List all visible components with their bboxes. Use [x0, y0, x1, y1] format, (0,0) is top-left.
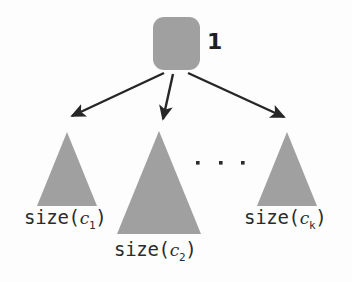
ellipsis-dot-3 — [241, 161, 245, 165]
subtree-label-ck-var: ck — [300, 208, 316, 228]
diagram-canvas: 1 size(c1) size(c2) size(ck) — [0, 0, 352, 282]
subtree-label-c2-index: 2 — [179, 251, 185, 264]
subtree-label-c1-var: c1 — [80, 208, 96, 228]
subtree-triangle-c2 — [117, 131, 201, 234]
subtree-label-c1: size(c1) — [24, 206, 106, 228]
ellipsis-dot-2 — [219, 161, 223, 165]
subtree-label-c1-prefix: size( — [24, 206, 80, 228]
edge-to-child-2 — [163, 74, 173, 119]
edge-to-child-k — [188, 73, 284, 117]
subtree-label-ck-index: k — [309, 219, 315, 232]
subtree-label-c1-suffix: ) — [95, 206, 106, 228]
subtree-label-c2: size(c2) — [114, 238, 196, 260]
subtree-label-c2-suffix: ) — [185, 238, 196, 260]
subtree-label-c1-index: 1 — [89, 219, 95, 232]
root-count-label: 1 — [207, 29, 222, 54]
subtree-triangle-c1 — [37, 132, 97, 206]
subtree-label-ck-prefix: size( — [244, 206, 300, 228]
subtree-label-ck-suffix: ) — [315, 206, 326, 228]
subtree-label-c2-prefix: size( — [114, 238, 170, 260]
subtree-label-ck: size(ck) — [244, 206, 326, 228]
subtree-label-c2-var: c2 — [170, 240, 186, 260]
root-node — [153, 17, 200, 70]
edge-to-child-1 — [72, 73, 164, 116]
subtree-triangle-ck — [257, 132, 317, 206]
ellipsis-dot-1 — [196, 161, 200, 165]
